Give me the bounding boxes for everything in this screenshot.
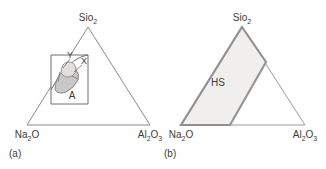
panel-b-vertex-top-base: Sio	[233, 12, 248, 23]
panel-a-vertex-br-sub2: 3	[158, 135, 162, 142]
panel-b-vertex-br-sub2: 3	[313, 135, 317, 142]
panel-b-hs-region	[181, 27, 266, 125]
panel-a-callout-x: X	[81, 56, 87, 66]
panel-a-region-label: A	[69, 90, 76, 101]
panel-a-vertex-bottom-right: Al2O3	[138, 129, 163, 142]
panel-b-vertex-top-sub: 2	[247, 18, 251, 25]
panel-a-vertex-top-base: Sio	[79, 12, 94, 23]
panel-b-vertex-bl-tail: O	[185, 129, 193, 140]
panel-a-vertex-bl-tail: O	[31, 129, 39, 140]
panel-a-caption: (a)	[9, 148, 21, 159]
panel-a-vertex-top-sub: 2	[93, 18, 97, 25]
panel-a-vertex-bottom-left: Na2O	[15, 129, 40, 142]
ternary-diagram-svg: Y X A Sio2 Na2O Al2O3 (a)	[0, 0, 326, 169]
panel-b-caption: (b)	[164, 148, 176, 159]
panel-b: HS Sio2 Na2O Al2O3 (b)	[164, 12, 317, 159]
panel-a-vertex-bl-base: Na	[15, 129, 28, 140]
panel-a-callout-y: Y	[67, 50, 73, 60]
figure-root: Y X A Sio2 Na2O Al2O3 (a)	[0, 0, 326, 169]
panel-b-vertex-br-base: Al	[293, 129, 302, 140]
panel-b-vertex-bottom-left: Na2O	[169, 129, 194, 142]
panel-a: Y X A Sio2 Na2O Al2O3 (a)	[9, 12, 162, 159]
panel-b-vertex-bl-base: Na	[169, 129, 182, 140]
panel-a-shaded-lobe	[61, 62, 76, 77]
panel-a-vertex-top: Sio2	[79, 12, 97, 25]
panel-b-region-label: HS	[211, 77, 225, 88]
panel-a-vertex-br-base: Al	[138, 129, 147, 140]
panel-b-vertex-bottom-right: Al2O3	[293, 129, 318, 142]
panel-b-vertex-top: Sio2	[233, 12, 251, 25]
